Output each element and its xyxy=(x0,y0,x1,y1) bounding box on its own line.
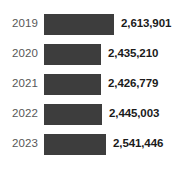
bar-track xyxy=(44,14,114,35)
value-label-2022: 2,445,003 xyxy=(109,108,159,120)
category-label-2023: 2023 xyxy=(0,138,38,150)
bar-2020 xyxy=(44,44,101,65)
chart-row: 2020 2,435,210 xyxy=(0,39,185,69)
bar-track xyxy=(44,134,106,155)
bar-track xyxy=(44,104,102,125)
value-label-2021: 2,426,779 xyxy=(108,78,158,90)
chart-row: 2022 2,445,003 xyxy=(0,99,185,129)
value-label-2020: 2,435,210 xyxy=(108,48,158,60)
chart-row: 2021 2,426,779 xyxy=(0,69,185,99)
category-label-2021: 2021 xyxy=(0,78,38,90)
bar-2021 xyxy=(44,74,101,95)
chart-row: 2019 2,613,901 xyxy=(0,9,185,39)
bar-track xyxy=(44,44,101,65)
bar-2019 xyxy=(44,14,114,35)
bar-track xyxy=(44,74,101,95)
category-label-2020: 2020 xyxy=(0,48,38,60)
bar-2022 xyxy=(44,104,102,125)
category-label-2019: 2019 xyxy=(0,18,38,30)
value-label-2019: 2,613,901 xyxy=(121,18,171,30)
value-label-2023: 2,541,446 xyxy=(113,138,163,150)
category-label-2022: 2022 xyxy=(0,108,38,120)
horizontal-bar-chart: 2019 2,613,901 2020 2,435,210 2021 2,426… xyxy=(0,0,185,170)
chart-row: 2023 2,541,446 xyxy=(0,129,185,159)
bar-2023 xyxy=(44,134,106,155)
